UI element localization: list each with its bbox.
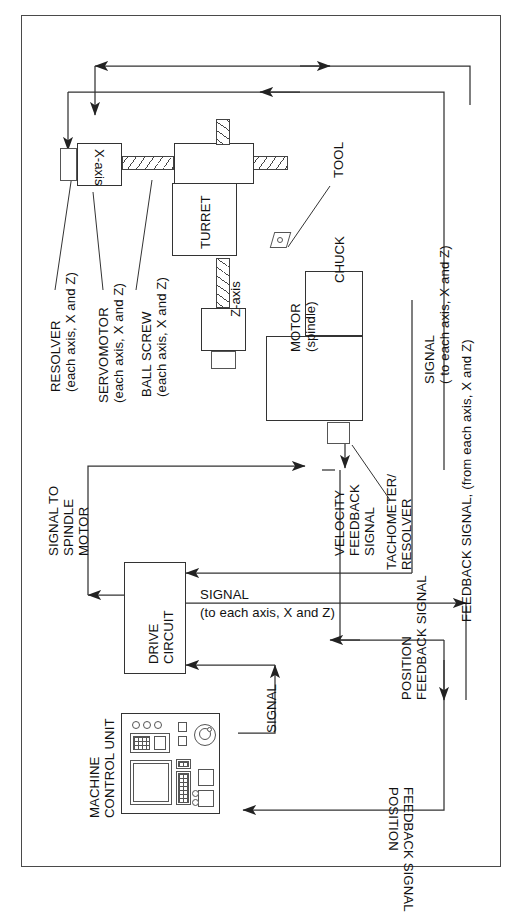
velocity-feedback-line2: FEEDBACK xyxy=(348,484,363,556)
tachometer-resolver-line2: RESOLVER xyxy=(400,498,415,570)
drive-circuit-label-line1: DRIVE xyxy=(146,624,161,664)
feedback-signal-right: FEEDBACK SIGNAL, (from each axis, X and … xyxy=(460,339,475,622)
x-axis-label: X-axis xyxy=(92,149,107,186)
switch-1[interactable] xyxy=(178,722,187,732)
signal-right-line2: ( to each axis, X and Z) xyxy=(438,245,453,384)
spindle-motor-label-line2: (spindle) xyxy=(303,301,318,352)
softkey-keys-icon[interactable] xyxy=(178,761,189,767)
lamp-1-icon xyxy=(132,721,140,729)
mcu-callout-line2: CONTROL UNIT xyxy=(103,718,118,818)
position-feedback-line1: POSITION xyxy=(385,787,400,851)
machine-control-unit[interactable] xyxy=(121,713,220,814)
ball-screw-callout-line1: BALL SCREW xyxy=(140,311,155,397)
button-panel-2[interactable] xyxy=(198,790,214,807)
lamp-3-icon xyxy=(154,721,162,729)
z-resolver-block xyxy=(211,351,236,369)
keypad-keys-icon[interactable] xyxy=(133,736,150,750)
mcu-signal-label: SIGNAL xyxy=(265,684,280,733)
turret-label: TURRET xyxy=(198,196,213,249)
z-axis-label: Z-axis xyxy=(228,281,243,317)
drive-circuit-label-line2: CIRCUIT xyxy=(161,611,176,664)
resolver-callout-line1: RESOLVER xyxy=(49,320,64,392)
drive-signal-line2: (to each axis, X and Z) xyxy=(200,606,335,621)
lamp-2-icon xyxy=(143,721,151,729)
ball-screw-callout-line2: (each axis, X and Z) xyxy=(155,277,170,397)
position-feedback-upper-line1: POSITION xyxy=(400,636,415,700)
carriage-block xyxy=(174,143,254,184)
position-feedback-line2: FEEDBACK SIGNAL xyxy=(400,787,415,912)
z-ball-screw-top xyxy=(216,119,230,145)
keypad-display xyxy=(154,736,166,750)
velocity-feedback-line1: VELOCITY xyxy=(333,490,348,556)
position-feedback-upper-line2: FEEDBACK SIGNAL xyxy=(415,575,430,700)
servomotor-callout-line1: SERVOMOTOR xyxy=(97,307,112,403)
spindle-motor-label-line1: MOTOR xyxy=(288,303,303,352)
chuck-label: CHUCK xyxy=(332,236,347,283)
tool-callout: TOOL xyxy=(332,142,347,178)
keyboard-keys-icon[interactable] xyxy=(178,773,189,803)
signal-spindle-line1: SIGNAL TO xyxy=(47,486,62,556)
rotary-dial-pointer-icon xyxy=(207,727,212,732)
signal-spindle-line2: SPINDLE xyxy=(62,499,77,556)
resolver-callout-line2: (each axis, X and Z) xyxy=(64,272,79,392)
x-ball-screw-right xyxy=(253,156,288,170)
signal-spindle-line3: MOTOR xyxy=(77,507,92,556)
tachometer-resolver-block xyxy=(327,422,350,444)
button-panel-1[interactable] xyxy=(198,769,214,786)
servomotor-callout-line2: (each axis, X and Z) xyxy=(112,283,127,403)
mcu-callout-line1: MACHINE xyxy=(88,756,103,818)
switch-2[interactable] xyxy=(178,736,187,746)
tachometer-resolver-line1: TACHOMETER/ xyxy=(385,474,400,570)
tool-tip-icon xyxy=(277,237,283,243)
drive-signal-line1: SIGNAL xyxy=(200,588,249,603)
x-ball-screw xyxy=(122,156,174,170)
velocity-feedback-line3: SIGNAL xyxy=(363,507,378,556)
crt-screen xyxy=(133,763,169,802)
resolver-block xyxy=(60,148,77,181)
signal-right-line1: SIGNAL xyxy=(423,335,438,384)
indicator-2-icon xyxy=(192,799,199,806)
indicator-1-icon xyxy=(192,790,199,797)
